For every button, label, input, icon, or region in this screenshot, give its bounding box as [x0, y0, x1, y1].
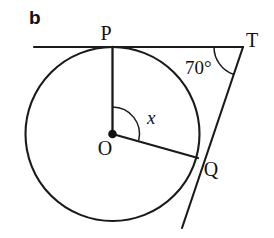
point-label-o: O	[98, 137, 112, 159]
part-label: b	[29, 7, 41, 28]
geometry-figure: b P T Q O 70° x	[0, 0, 274, 238]
angle-label-70: 70°	[185, 57, 212, 78]
angle-arc-70	[214, 47, 233, 74]
radius-oq	[113, 134, 199, 158]
point-label-t: T	[246, 29, 258, 51]
circle-tangent-diagram: b P T Q O 70° x	[0, 0, 274, 238]
point-label-p: P	[100, 22, 111, 44]
angle-label-x: x	[146, 107, 156, 128]
point-label-q: Q	[204, 158, 219, 180]
